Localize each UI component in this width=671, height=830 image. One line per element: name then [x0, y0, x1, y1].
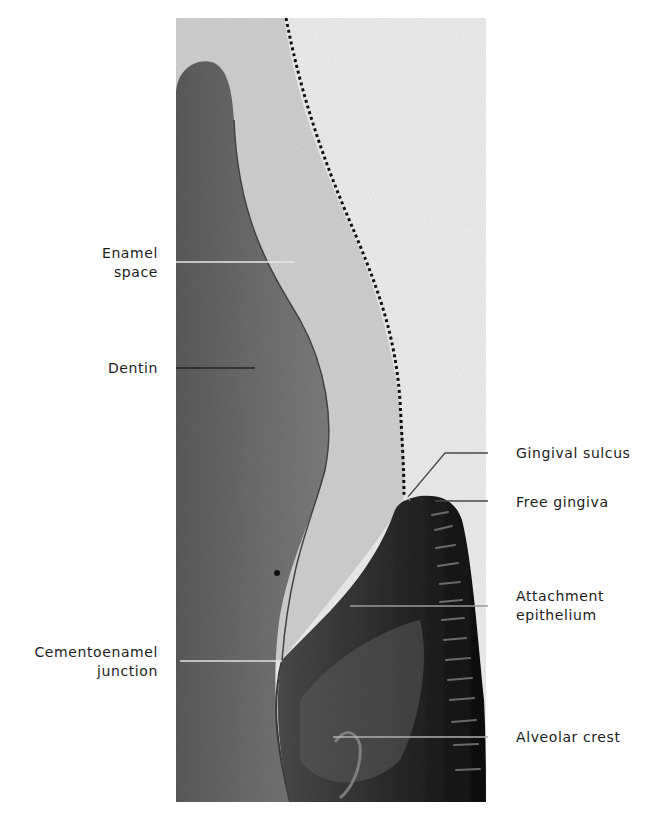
label-text: Cementoenamel: [4, 643, 158, 662]
label-text: Dentin: [60, 359, 158, 378]
tooth-section-image: ×: [0, 0, 671, 830]
label-text: junction: [4, 662, 158, 681]
label-text: Attachment: [516, 587, 604, 606]
label-text: Gingival sulcus: [516, 444, 631, 463]
label-gingival-sulcus: Gingival sulcus: [516, 444, 631, 463]
svg-text:×: ×: [404, 493, 412, 503]
label-dentin: Dentin: [60, 359, 158, 378]
label-free-gingiva: Free gingiva: [516, 493, 609, 512]
label-cementoenamel-junction: Cementoenamel junction: [4, 643, 158, 681]
label-text: space: [60, 263, 158, 282]
label-text: Enamel: [60, 244, 158, 263]
label-enamel-space: Enamel space: [60, 244, 158, 282]
label-alveolar-crest: Alveolar crest: [516, 728, 621, 747]
label-text: Alveolar crest: [516, 728, 621, 747]
label-text: Free gingiva: [516, 493, 609, 512]
label-attachment-epithelium: Attachment epithelium: [516, 587, 604, 625]
label-text: epithelium: [516, 606, 604, 625]
histology-figure: × Enamel space Dentin Cementoenamel junc…: [0, 0, 671, 830]
